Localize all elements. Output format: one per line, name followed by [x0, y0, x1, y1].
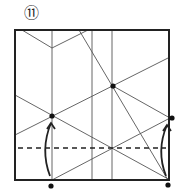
curved-arrow-icon: [45, 123, 51, 176]
fold-diagram: [0, 0, 183, 196]
crease-lines: [15, 30, 170, 180]
reference-dot: [165, 182, 170, 187]
crease-line: [15, 95, 170, 180]
reference-dot: [169, 115, 174, 120]
reference-points: [48, 83, 174, 188]
crease-line: [52, 30, 88, 48]
reference-dot: [110, 83, 115, 88]
reference-dot: [49, 113, 54, 118]
crease-line: [22, 30, 52, 48]
reference-dot: [48, 183, 53, 188]
curved-arrow-icon: [161, 125, 167, 176]
crease-line: [15, 57, 170, 135]
fold-arrows: [45, 123, 171, 176]
arrowhead-icon: [47, 123, 55, 129]
